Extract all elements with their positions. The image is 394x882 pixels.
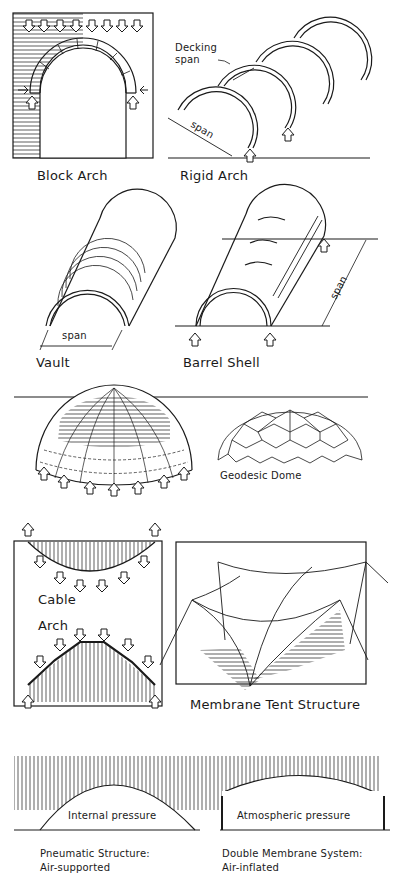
cable-label: Cable [38, 592, 76, 607]
atmospheric-pressure-label: Atmospheric pressure [237, 810, 350, 821]
block-arch-label: Block Arch [37, 168, 108, 183]
vault-label: Vault [36, 355, 70, 370]
geodesic-dome-drawing [218, 410, 362, 463]
membrane-tent-drawing [160, 542, 388, 690]
rigid-arch-label: Rigid Arch [180, 168, 248, 183]
pneumatic-label-2: Air-supported [40, 862, 110, 873]
vault-span-label: span [62, 330, 87, 341]
internal-pressure-label: Internal pressure [68, 810, 156, 821]
decking-label: Decking [175, 42, 217, 53]
membrane-tent-label: Membrane Tent Structure [190, 697, 360, 712]
dome-drawing [14, 385, 368, 496]
barrel-shell-label: Barrel Shell [183, 355, 260, 370]
vault-drawing [40, 189, 176, 350]
double-membrane-label-2: Air-inflated [222, 862, 279, 873]
rigid-arch-drawing [168, 17, 372, 162]
barrel-shell-drawing [175, 185, 378, 346]
pneumatic-label-1: Pneumatic Structure: [40, 848, 150, 859]
geodesic-dome-label: Geodesic Dome [220, 470, 302, 481]
block-arch-drawing [13, 13, 153, 158]
double-membrane-label-1: Double Membrane System: [222, 848, 363, 859]
cable-arch-drawing [14, 523, 162, 708]
decking-span-label: span [175, 54, 200, 65]
arch-label: Arch [38, 618, 68, 633]
